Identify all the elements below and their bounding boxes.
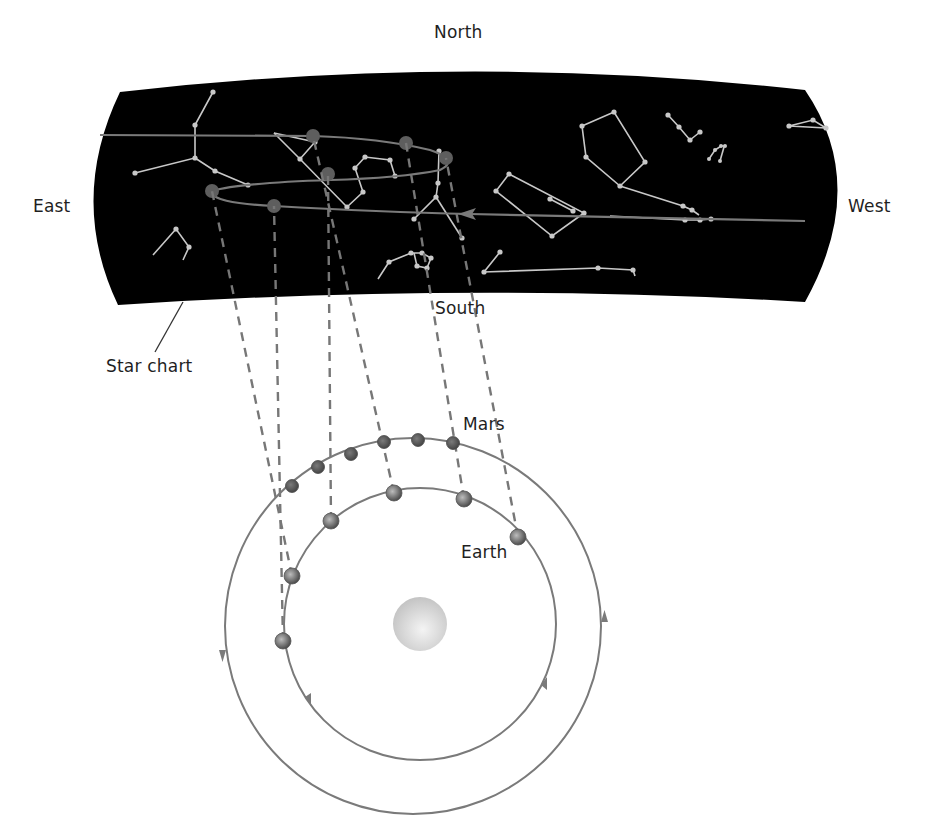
sun — [393, 597, 447, 651]
label-east: East — [33, 196, 70, 216]
label-mars: Mars — [463, 414, 505, 434]
arrow-up-icon — [601, 610, 608, 622]
star-chart — [93, 71, 837, 305]
star-chart-leader-line — [155, 302, 183, 352]
label-south: South — [435, 298, 485, 318]
arrow-down-icon — [219, 650, 226, 662]
label-north: North — [434, 22, 483, 42]
label-star-chart: Star chart — [106, 356, 192, 376]
label-west: West — [848, 196, 891, 216]
label-earth: Earth — [461, 542, 508, 562]
